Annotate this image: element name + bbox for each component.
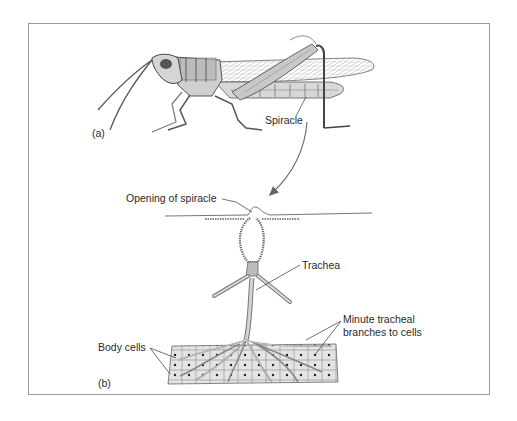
spiracle-label: Spiracle [265,114,303,126]
zoom-arrow [272,122,307,193]
minute-tracheal-label-line1: Minute tracheal [343,313,415,325]
front-leg [168,95,190,130]
trachea-trunk [246,262,258,276]
opening-of-spiracle-label: Opening of spiracle [126,192,216,204]
minute-tracheal-label-line2: branches to cells [343,326,422,338]
spiracle-atrium [240,218,264,262]
antenna [110,60,152,130]
grasshopper-illustration [98,36,374,132]
panel-b-label: (b) [98,377,111,389]
eye [160,59,172,69]
tracheal-system-illustration [150,199,372,384]
antenna [98,58,155,110]
front-leg [152,92,182,132]
trachea-label: Trachea [302,259,340,271]
trachea-branch-left [214,276,248,296]
body-cell-layer [168,344,338,384]
panel-a-label: (a) [92,127,105,139]
diagram-artwork [0,0,517,421]
body-cells-label: Body cells [98,341,146,353]
body-surface [165,207,372,216]
middle-leg [215,96,262,130]
